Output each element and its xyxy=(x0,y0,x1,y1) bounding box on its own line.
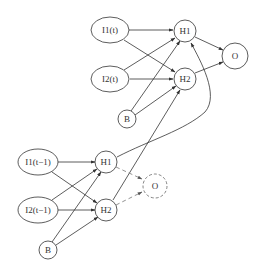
edge-i1t-h2t xyxy=(124,40,175,72)
node-label: H2 xyxy=(180,74,191,84)
node-h1-t-minus-1: H1 xyxy=(95,151,117,173)
node-bias-t: B xyxy=(118,110,136,128)
edge-bt-h2t xyxy=(135,86,176,115)
node-label: B xyxy=(45,245,51,255)
node-label: H1 xyxy=(180,26,191,36)
node-h2-t-minus-1: H2 xyxy=(95,199,117,221)
edge-h2t-ot xyxy=(195,62,223,73)
node-i2-t-minus-1: I2(t−1) xyxy=(18,197,58,223)
node-i1-t-minus-1: I1(t−1) xyxy=(18,149,58,175)
node-label: H1 xyxy=(101,157,112,167)
node-o-t: O xyxy=(222,43,248,69)
edge-h1t1-ot1 xyxy=(116,167,142,179)
top-layer: I1(t) I2(t) B H1 H2 O xyxy=(91,17,248,128)
node-label: O xyxy=(152,181,159,191)
rnn-diagram: I1(t) I2(t) B H1 H2 O I1(t−1) xyxy=(0,0,262,272)
edge-bt1-h2t1 xyxy=(56,217,98,245)
node-i2-t: I2(t) xyxy=(91,66,129,92)
node-h2-t: H2 xyxy=(174,68,196,90)
node-label: B xyxy=(124,114,130,124)
node-label: I1(t) xyxy=(102,25,118,35)
bottom-layer: I1(t−1) I2(t−1) B H1 H2 O xyxy=(18,149,167,259)
edge-i2t-h1t xyxy=(124,38,175,70)
edge-h2t1-ot1 xyxy=(116,192,142,205)
node-h1-t: H1 xyxy=(174,20,196,42)
edge-h1t1-h1t xyxy=(117,43,210,157)
top-edges xyxy=(124,30,223,115)
node-o-t-minus-1: O xyxy=(143,174,167,198)
node-label: I2(t) xyxy=(102,74,118,84)
node-label: O xyxy=(232,51,239,61)
node-label: H2 xyxy=(101,205,112,215)
node-i1-t: I1(t) xyxy=(91,17,129,43)
node-label: I1(t−1) xyxy=(25,157,51,167)
edge-h1t-ot xyxy=(195,37,223,50)
node-label: I2(t−1) xyxy=(25,205,51,215)
node-bias-t-minus-1: B xyxy=(39,241,57,259)
edge-i2t1-h1t1 xyxy=(52,169,97,200)
